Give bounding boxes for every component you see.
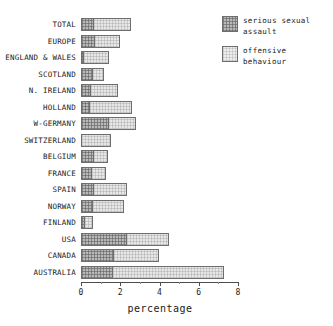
bar-segment-serious-sexual-assault — [81, 101, 89, 114]
x-axis-title: percentage — [81, 303, 239, 314]
x-tick — [199, 282, 200, 286]
bar-segment-offensive-behaviour — [92, 200, 124, 213]
chart-row: CANADA — [0, 249, 333, 264]
x-tick-minor — [101, 282, 102, 284]
stacked-bar — [81, 150, 108, 163]
bar-segment-offensive-behaviour — [94, 35, 120, 48]
stacked-bar — [81, 101, 132, 114]
category-label-finland: FINLAND — [0, 218, 76, 228]
bar-segment-serious-sexual-assault — [81, 150, 93, 163]
bar-segment-offensive-behaviour — [91, 167, 106, 180]
bar-segment-offensive-behaviour — [113, 249, 158, 262]
bar-segment-serious-sexual-assault — [81, 249, 113, 262]
x-tick-minor — [218, 282, 219, 284]
stacked-bar — [81, 84, 118, 97]
x-tick — [120, 282, 121, 286]
x-tick-label: 8 — [228, 288, 248, 297]
bar-segment-offensive-behaviour — [92, 68, 104, 81]
bar-segment-offensive-behaviour — [93, 183, 127, 196]
bar-segment-serious-sexual-assault — [81, 117, 108, 130]
category-label-usa: USA — [0, 235, 76, 245]
chart-row: BELGIUM — [0, 150, 333, 165]
legend-label-serious-sexual-assault: serious sexual assault — [243, 15, 310, 37]
stacked-bar — [81, 266, 224, 279]
stacked-bar — [81, 117, 136, 130]
bar-segment-offensive-behaviour — [93, 18, 131, 31]
category-label-spain: SPAIN — [0, 185, 76, 195]
legend-swatch-serious-sexual-assault-icon — [222, 16, 238, 32]
category-label-w-germany: W-GERMANY — [0, 119, 76, 129]
bar-segment-serious-sexual-assault — [81, 167, 91, 180]
stacked-bar — [81, 18, 131, 31]
bar-segment-offensive-behaviour — [83, 51, 109, 64]
chart-row: SWITZERLAND — [0, 134, 333, 149]
bar-segment-serious-sexual-assault — [81, 35, 94, 48]
chart-row: USA — [0, 233, 333, 248]
x-tick-label: 6 — [189, 288, 209, 297]
legend-label-offensive-behaviour: offensive behaviour — [243, 45, 286, 67]
stacked-bar — [81, 167, 106, 180]
x-tick — [81, 282, 82, 286]
x-tick-label: 0 — [71, 288, 91, 297]
stacked-bar — [81, 233, 169, 246]
stacked-bar — [81, 51, 109, 64]
legend-entry-serious-sexual-assault: serious sexual assault — [222, 16, 333, 38]
category-label-scotland: SCOTLAND — [0, 70, 76, 80]
stacked-bar — [81, 35, 120, 48]
bar-segment-serious-sexual-assault — [81, 200, 92, 213]
bar-segment-offensive-behaviour — [81, 134, 111, 147]
stacked-bar — [81, 68, 104, 81]
stacked-bar — [81, 249, 159, 262]
category-label-france: FRANCE — [0, 169, 76, 179]
stacked-bar — [81, 183, 127, 196]
stacked-bar — [81, 216, 93, 229]
chart-row: SPAIN — [0, 183, 333, 198]
category-label-norway: NORWAY — [0, 202, 76, 212]
chart-row: AUSTRALIA — [0, 266, 333, 281]
category-label-total: TOTAL — [0, 20, 76, 30]
category-label-canada: CANADA — [0, 251, 76, 261]
bar-segment-serious-sexual-assault — [81, 233, 126, 246]
bar-segment-serious-sexual-assault — [81, 18, 93, 31]
x-tick-minor — [140, 282, 141, 284]
bar-segment-serious-sexual-assault — [81, 84, 90, 97]
chart-legend: serious sexual assault offensive behavio… — [222, 16, 333, 76]
bar-segment-offensive-behaviour — [89, 101, 132, 114]
x-tick — [238, 282, 239, 286]
category-label-holland: HOLLAND — [0, 103, 76, 113]
chart-row: FINLAND — [0, 216, 333, 231]
legend-entry-offensive-behaviour: offensive behaviour — [222, 46, 333, 68]
stacked-bar — [81, 134, 111, 147]
bar-segment-serious-sexual-assault — [81, 183, 93, 196]
legend-swatch-offensive-behaviour-icon — [222, 46, 238, 62]
bar-segment-serious-sexual-assault — [81, 68, 92, 81]
bar-segment-offensive-behaviour — [126, 233, 169, 246]
chart-row: NORWAY — [0, 200, 333, 215]
chart-row: HOLLAND — [0, 101, 333, 116]
bar-segment-offensive-behaviour — [93, 150, 109, 163]
category-label-belgium: BELGIUM — [0, 152, 76, 162]
x-tick-label: 4 — [150, 288, 170, 297]
chart-row: N. IRELAND — [0, 84, 333, 99]
bar-segment-offensive-behaviour — [112, 266, 224, 279]
x-tick — [160, 282, 161, 286]
x-tick-label: 2 — [110, 288, 130, 297]
x-tick-minor — [179, 282, 180, 284]
category-label-switzerland: SWITZERLAND — [0, 136, 76, 146]
bar-segment-offensive-behaviour — [90, 84, 118, 97]
bar-segment-offensive-behaviour — [108, 117, 135, 130]
category-label-australia: AUSTRALIA — [0, 268, 76, 278]
category-label-europe: EUROPE — [0, 37, 76, 47]
chart-row: FRANCE — [0, 167, 333, 182]
bar-segment-offensive-behaviour — [84, 216, 93, 229]
category-label-england-wales: ENGLAND & WALES — [0, 53, 76, 63]
stacked-bar — [81, 200, 124, 213]
bar-segment-serious-sexual-assault — [81, 266, 112, 279]
bar-chart: TOTALEUROPEENGLAND & WALESSCOTLANDN. IRE… — [0, 0, 333, 326]
category-label-n-ireland: N. IRELAND — [0, 86, 76, 96]
chart-row: W-GERMANY — [0, 117, 333, 132]
